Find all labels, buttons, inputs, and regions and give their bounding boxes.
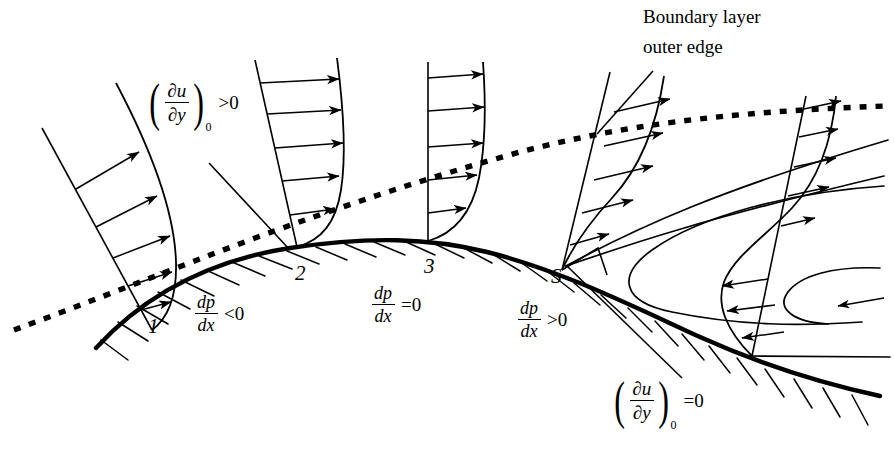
leader-boundary-edge bbox=[597, 71, 653, 134]
dp-dx-fraction: dp dx bbox=[194, 292, 218, 335]
pressure-gradient-zero-annotation: dp dx =0 bbox=[370, 283, 421, 326]
velocity-profile-separation bbox=[562, 72, 670, 275]
close-paren-glyph: ) bbox=[659, 384, 670, 418]
close-paren-glyph: ) bbox=[194, 86, 205, 120]
boundary-layer-edge-label-line1: Boundary layer bbox=[643, 6, 761, 27]
diagram-canvas bbox=[0, 0, 894, 464]
velocity-vectors-2 bbox=[260, 79, 343, 215]
open-paren-glyph: ( bbox=[149, 86, 160, 120]
boundary-layer-outer-edge bbox=[14, 106, 886, 330]
boundary-layer-separation-figure: Boundary layer outer edge ( ∂u ∂y ) 0 >0… bbox=[0, 0, 894, 464]
station-label-separation: S bbox=[551, 265, 562, 289]
pressure-gradient-adverse-annotation: dp dx >0 bbox=[516, 298, 567, 341]
velocity-profile-2 bbox=[255, 58, 344, 247]
open-paren-glyph: ( bbox=[614, 384, 625, 418]
partial-derivative-fraction: ∂u ∂y bbox=[629, 378, 654, 424]
wall-shear-zero-annotation: ( ∂u ∂y ) 0 =0 bbox=[611, 378, 704, 424]
wall-shear-positive-annotation: ( ∂u ∂y ) 0 >0 bbox=[146, 80, 239, 126]
velocity-profile-3 bbox=[428, 62, 485, 241]
relation-greater-than-zero: >0 bbox=[219, 92, 239, 113]
relation-less-than-zero: <0 bbox=[224, 303, 244, 324]
dp-dx-fraction: dp dx bbox=[371, 283, 395, 326]
relation-equals-zero: =0 bbox=[401, 294, 421, 315]
leader-lines bbox=[209, 71, 682, 378]
station-label-3: 3 bbox=[424, 255, 435, 279]
dp-dx-fraction: dp dx bbox=[517, 298, 541, 341]
leader-shear-positive bbox=[209, 163, 290, 250]
station-label-2: 2 bbox=[295, 262, 306, 286]
subscript-zero: 0 bbox=[671, 419, 677, 432]
pressure-gradient-favorable-annotation: dp dx <0 bbox=[193, 292, 244, 335]
subscript-zero: 0 bbox=[206, 121, 212, 134]
relation-greater-than-zero: >0 bbox=[547, 309, 567, 330]
boundary-layer-edge-label-line2: outer edge bbox=[643, 36, 723, 57]
station-label-1: 1 bbox=[148, 315, 159, 339]
partial-derivative-fraction: ∂u ∂y bbox=[164, 80, 189, 126]
velocity-profile-reversed bbox=[721, 96, 841, 356]
relation-equals-zero: =0 bbox=[684, 390, 704, 411]
